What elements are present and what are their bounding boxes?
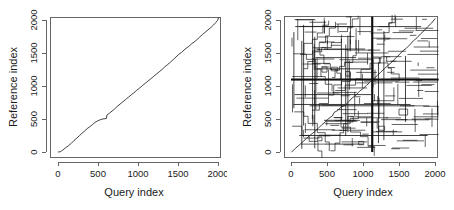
x-tick-label-2: 1000	[127, 168, 148, 179]
x-axis-right: 0 500 1000 1500 2000	[288, 162, 445, 179]
x-tick-label-0: 0	[55, 168, 60, 179]
x-axis-title-left: Query index	[104, 186, 164, 198]
x-tick-label-4: 2000	[207, 168, 227, 179]
panel-right: 0 500 1000 1500 2000 0 500 1000 1500 200…	[227, 0, 454, 210]
y-tick-label-3: 1500	[28, 42, 39, 63]
x-tick-label-4: 2000	[424, 168, 445, 179]
panel-left: 0 500 1000 1500 2000 0 500 1000 1500 200…	[0, 0, 227, 210]
y-axis-title-right: Reference index	[241, 46, 253, 127]
y-tick-label-0: 0	[28, 149, 39, 154]
y-tick-label-2: 1000	[262, 75, 273, 96]
y-axis-title-left: Reference index	[7, 46, 19, 127]
x-tick-label-1: 500	[90, 168, 106, 179]
y-tick-label-1: 500	[28, 111, 39, 127]
x-axis-left: 0 500 1000 1500 2000	[55, 162, 227, 179]
two-panel-dotplot-figure: 0 500 1000 1500 2000 0 500 1000 1500 200…	[0, 0, 454, 210]
repeat-segments	[291, 15, 439, 158]
x-tick-label-1: 500	[319, 168, 335, 179]
y-tick-label-0: 0	[262, 149, 273, 154]
x-tick-label-2: 1000	[352, 168, 373, 179]
y-tick-label-4: 2000	[262, 9, 273, 30]
y-tick-label-4: 2000	[28, 9, 39, 30]
y-tick-label-2: 1000	[28, 75, 39, 96]
y-axis-left: 0 500 1000 1500 2000	[28, 9, 46, 154]
y-tick-label-3: 1500	[262, 42, 273, 63]
y-tick-label-1: 500	[262, 111, 273, 127]
x-tick-label-3: 1500	[167, 168, 188, 179]
x-tick-label-3: 1500	[388, 168, 409, 179]
series-primary-diagonal-alignment	[58, 18, 218, 152]
plot-box-left	[51, 18, 221, 158]
x-axis-title-right: Query index	[333, 186, 393, 198]
x-tick-label-0: 0	[288, 168, 293, 179]
y-axis-right: 0 500 1000 1500 2000	[262, 9, 280, 154]
